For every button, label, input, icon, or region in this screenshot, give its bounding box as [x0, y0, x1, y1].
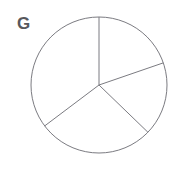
figure-label-g: G [17, 15, 30, 33]
pie-chart-figure: G [0, 0, 183, 169]
radius-lower-left-line [45, 85, 99, 126]
radius-upper-right-line [99, 63, 163, 85]
radius-lower-right-line [99, 85, 148, 132]
